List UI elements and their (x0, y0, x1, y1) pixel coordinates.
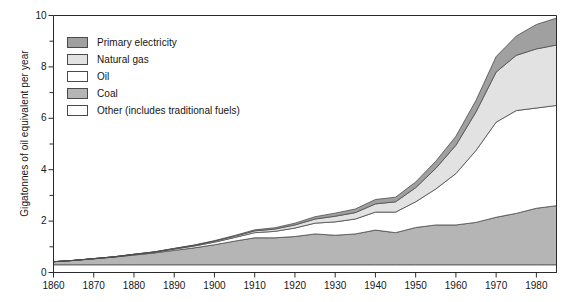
x-tick-label: 1920 (275, 280, 315, 291)
legend-swatch-oil (67, 71, 88, 82)
legend-item-other: Other (includes traditional fuels) (67, 102, 240, 119)
x-tick-label: 1910 (235, 280, 275, 291)
legend-swatch-natural-gas (67, 54, 88, 65)
legend-item-primary-electricity: Primary electricity (67, 34, 240, 51)
legend-label-other: Other (includes traditional fuels) (97, 105, 240, 116)
x-tick-label: 1980 (516, 280, 556, 291)
y-tick-label: 8 (25, 61, 47, 72)
legend-label-natural-gas: Natural gas (97, 54, 149, 65)
chart-figure: Gigatonnes of oil equivalent per year Pr… (0, 0, 573, 302)
x-tick-label: 1870 (74, 280, 114, 291)
legend-label-coal: Coal (97, 88, 118, 99)
y-tick-label: 10 (25, 10, 47, 21)
y-tick-label: 4 (25, 164, 47, 175)
x-tick-label: 1970 (476, 280, 516, 291)
x-tick-label: 1960 (436, 280, 476, 291)
x-tick-label: 1930 (315, 280, 355, 291)
legend-item-oil: Oil (67, 68, 240, 85)
area-other-includes-traditional-fuels (54, 265, 557, 273)
x-tick-label: 1880 (114, 280, 154, 291)
x-tick-label: 1950 (396, 280, 436, 291)
legend-item-coal: Coal (67, 85, 240, 102)
y-tick-label: 6 (25, 112, 47, 123)
x-tick-label: 1890 (154, 280, 194, 291)
x-tick-label: 1940 (355, 280, 395, 291)
legend-label-primary-electricity: Primary electricity (97, 37, 177, 48)
legend-swatch-other (67, 105, 88, 116)
legend-swatch-coal (67, 88, 88, 99)
chart-legend: Primary electricity Natural gas Oil Coal… (67, 34, 240, 119)
legend-item-natural-gas: Natural gas (67, 51, 240, 68)
legend-label-oil: Oil (97, 71, 109, 82)
x-tick-label: 1900 (194, 280, 234, 291)
legend-swatch-primary-electricity (67, 37, 88, 48)
x-tick-label: 1860 (34, 280, 74, 291)
y-tick-label: 0 (25, 267, 47, 278)
y-tick-label: 2 (25, 215, 47, 226)
